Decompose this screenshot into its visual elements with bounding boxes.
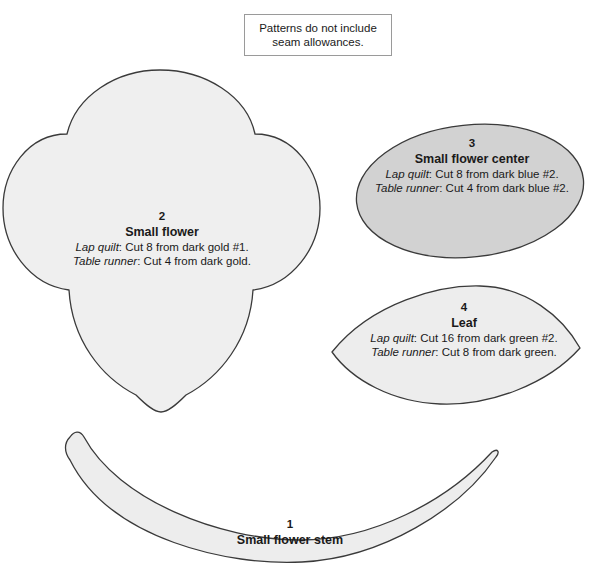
- piece-name: Small flower stem: [186, 532, 394, 548]
- piece-name: Small flower: [38, 224, 286, 240]
- table-runner-text: : Cut 4 from dark gold.: [137, 255, 251, 267]
- lap-quilt-text: : Cut 8 from dark gold #1.: [119, 241, 249, 253]
- piece-number: 2: [38, 209, 286, 224]
- pattern-template-canvas: [0, 0, 596, 577]
- table-runner-text: : Cut 4 from dark blue #2.: [439, 182, 569, 194]
- label-small-flower-center: 3 Small flower center Lap quilt: Cut 8 f…: [368, 136, 576, 195]
- lap-quilt-instruction: Lap quilt: Cut 16 from dark green #2.: [358, 331, 570, 345]
- lap-quilt-prefix: Lap quilt: [385, 168, 428, 180]
- piece-name: Leaf: [358, 315, 570, 331]
- lap-quilt-instruction: Lap quilt: Cut 8 from dark gold #1.: [38, 240, 286, 254]
- table-runner-instruction: Table runner: Cut 4 from dark blue #2.: [368, 181, 576, 195]
- table-runner-prefix: Table runner: [371, 346, 435, 358]
- table-runner-text: : Cut 8 from dark green.: [435, 346, 556, 358]
- piece-number: 1: [186, 517, 394, 532]
- lap-quilt-prefix: Lap quilt: [75, 241, 118, 253]
- lap-quilt-text: : Cut 8 from dark blue #2.: [429, 168, 559, 180]
- label-small-flower: 2 Small flower Lap quilt: Cut 8 from dar…: [38, 209, 286, 268]
- table-runner-instruction: Table runner: Cut 8 from dark green.: [358, 345, 570, 359]
- lap-quilt-instruction: Lap quilt: Cut 8 from dark blue #2.: [368, 167, 576, 181]
- piece-name: Small flower center: [368, 151, 576, 167]
- table-runner-prefix: Table runner: [375, 182, 439, 194]
- lap-quilt-prefix: Lap quilt: [370, 332, 413, 344]
- seam-allowance-note-text: Patterns do not include seam allowances.: [245, 21, 391, 49]
- seam-allowance-note: Patterns do not include seam allowances.: [244, 14, 392, 56]
- label-small-flower-stem: 1 Small flower stem: [186, 517, 394, 548]
- lap-quilt-text: : Cut 16 from dark green #2.: [414, 332, 558, 344]
- label-leaf: 4 Leaf Lap quilt: Cut 16 from dark green…: [358, 300, 570, 359]
- piece-number: 3: [368, 136, 576, 151]
- piece-number: 4: [358, 300, 570, 315]
- table-runner-prefix: Table runner: [73, 255, 137, 267]
- table-runner-instruction: Table runner: Cut 4 from dark gold.: [38, 254, 286, 268]
